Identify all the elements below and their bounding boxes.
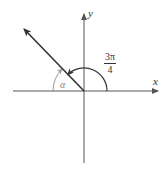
angle-diagram [0, 0, 168, 171]
angle-denominator: 4 [108, 64, 113, 75]
x-axis-label: x [153, 76, 158, 87]
angle-value-label: 3π 4 [104, 52, 116, 75]
alpha-label: α [60, 80, 65, 90]
angle-numerator: 3π [104, 52, 116, 64]
y-axis-label: y [88, 8, 93, 19]
